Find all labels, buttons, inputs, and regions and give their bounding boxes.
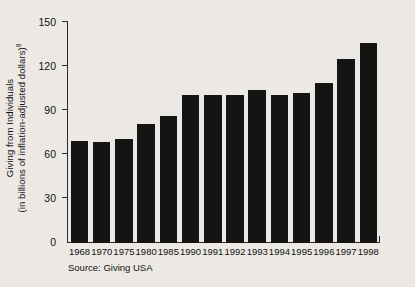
y-axis-title: Giving from Individuals (in billions of …: [0, 0, 36, 250]
bar-rect-1990: [182, 95, 200, 243]
y-tick-label-0: 0: [30, 237, 56, 247]
y-tick-label-90: 90: [30, 105, 56, 115]
y-axis-title-line-2: (in billions of inflation-adjusted dolla…: [15, 12, 27, 244]
bar-1996: [315, 21, 333, 243]
chart-figure: Giving from Individuals (in billions of …: [0, 0, 415, 287]
x-tick-label-1993: 1993: [246, 246, 268, 257]
x-tick-label-1998: 1998: [357, 246, 379, 257]
bar-rect-1994: [271, 95, 289, 243]
y-tick-label-30: 30: [30, 193, 56, 203]
bar-1985: [160, 21, 178, 243]
bar-rect-1980: [137, 124, 155, 242]
bar-1990: [182, 21, 200, 243]
x-tick-label-1975: 1975: [113, 246, 135, 257]
bar-rect-1993: [248, 90, 266, 242]
x-tick-label-1985: 1985: [157, 246, 179, 257]
bar-rect-1995: [293, 93, 311, 242]
bar-1980: [137, 21, 155, 243]
bar-1968: [71, 21, 89, 243]
bar-rect-1992: [226, 95, 244, 243]
x-tick-label-1968: 1968: [68, 246, 90, 257]
bar-1992: [226, 21, 244, 243]
x-tick-label-1992: 1992: [224, 246, 246, 257]
x-tick-label-1970: 1970: [91, 246, 113, 257]
bar-rect-1996: [315, 83, 333, 242]
x-tick-label-1991: 1991: [202, 246, 224, 257]
x-tick-label-1997: 1997: [335, 246, 357, 257]
y-axis-title-footnote: 8: [15, 43, 22, 47]
bar-1993: [248, 21, 266, 243]
x-tick-label-1990: 1990: [179, 246, 201, 257]
bar-rect-1991: [204, 95, 222, 243]
bar-1975: [115, 21, 133, 243]
bar-rect-1970: [93, 142, 111, 242]
bar-1970: [93, 21, 111, 243]
y-tick-label-150: 150: [30, 17, 56, 27]
bar-1991: [204, 21, 222, 243]
x-tick-label-1994: 1994: [268, 246, 290, 257]
bar-1997: [337, 21, 355, 243]
y-tick-label-60: 60: [30, 149, 56, 159]
x-tick-label-1980: 1980: [135, 246, 157, 257]
source-note: Source: Giving USA: [68, 262, 152, 273]
bar-rect-1985: [160, 116, 178, 243]
bar-rect-1998: [360, 43, 378, 242]
bar-rect-1997: [337, 59, 355, 242]
plot-area: [68, 21, 379, 243]
bar-1994: [271, 21, 289, 243]
bar-rect-1968: [71, 141, 89, 243]
bar-1998: [360, 21, 378, 243]
x-tick-label-1995: 1995: [291, 246, 313, 257]
bar-1995: [293, 21, 311, 243]
bar-rect-1975: [115, 139, 133, 242]
y-tick-label-120: 120: [30, 61, 56, 71]
x-tick-label-1996: 1996: [313, 246, 335, 257]
